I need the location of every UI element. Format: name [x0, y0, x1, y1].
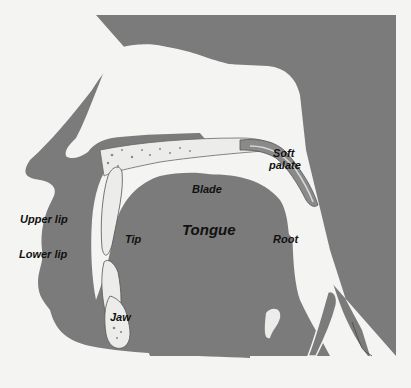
label-soft-palate-2: palate [269, 160, 301, 171]
label-upper-lip: Upper lip [20, 214, 68, 225]
label-root: Root [273, 234, 298, 245]
label-tongue: Tongue [182, 222, 236, 237]
label-lower-lip: Lower lip [19, 249, 67, 260]
label-soft-palate-1: Soft [273, 148, 294, 159]
label-jaw: Jaw [110, 312, 131, 323]
label-tip: Tip [125, 234, 141, 245]
label-blade: Blade [192, 184, 222, 195]
